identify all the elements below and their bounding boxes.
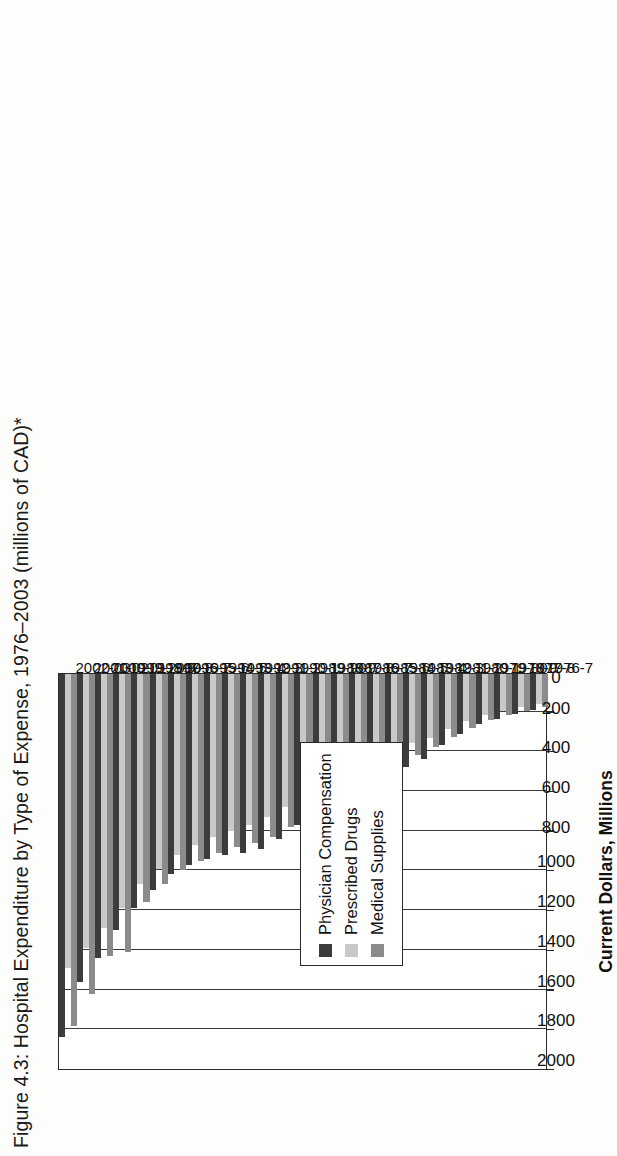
bar [216, 674, 222, 853]
bar [270, 674, 276, 837]
bar-group [276, 674, 294, 1069]
category-label: 2002-03 [76, 659, 131, 676]
bar [162, 674, 168, 884]
bar-group [168, 674, 186, 1069]
bar [488, 674, 494, 720]
bar-group [476, 674, 494, 1069]
bar [198, 674, 204, 861]
bar [524, 674, 530, 711]
axis-tick-label: 600 [542, 778, 570, 798]
bar [234, 674, 240, 847]
bar-group [77, 674, 95, 1069]
axis-tick-label: 800 [542, 818, 570, 838]
legend-label: Prescribed Drugs [342, 808, 361, 935]
axis-tick-label: 400 [542, 738, 570, 758]
bar [288, 674, 294, 827]
axis-tick-label: 1600 [537, 972, 575, 992]
bar [415, 674, 421, 755]
bar [506, 674, 512, 715]
legend: Physician CompensationPrescribed DrugsMe… [300, 742, 403, 966]
bar-group [403, 674, 421, 1069]
axis-tick-label: 1800 [537, 1011, 575, 1031]
bar [180, 674, 186, 871]
bar [469, 674, 475, 728]
bar [71, 674, 77, 1026]
bar-group [512, 674, 530, 1069]
axis-tick-label: 200 [542, 699, 570, 719]
bar-group [186, 674, 204, 1069]
bar [451, 674, 457, 737]
legend-label: Medical Supplies [368, 810, 387, 935]
bar-group [204, 674, 222, 1069]
bar-group [258, 674, 276, 1069]
bar [125, 674, 131, 952]
legend-item: Physician Compensation [316, 753, 335, 957]
bar [89, 674, 95, 994]
bar-group [131, 674, 149, 1069]
bar-group [421, 674, 439, 1069]
bar [143, 674, 149, 902]
axis-tick-label: 2000 [537, 1051, 575, 1071]
bar-group [439, 674, 457, 1069]
legend-label: Physician Compensation [316, 753, 335, 935]
page-title: Figure 4.3: Hospital Expenditure by Type… [10, 417, 33, 1148]
bar [107, 674, 113, 956]
bar-group [494, 674, 512, 1069]
bar-group [113, 674, 131, 1069]
legend-item: Prescribed Drugs [342, 753, 361, 957]
legend-swatch [345, 944, 358, 957]
legend-item: Medical Supplies [368, 753, 387, 957]
bar-group [95, 674, 113, 1069]
bar-group [150, 674, 168, 1069]
legend-swatch [371, 944, 384, 957]
axis-tick-label: 1000 [537, 853, 575, 873]
bar [252, 674, 258, 843]
bar-group [457, 674, 475, 1069]
legend-swatch [319, 944, 332, 957]
axis-tick-label: 1200 [537, 892, 575, 912]
bar-group [240, 674, 258, 1069]
axis-tick-label: 1400 [537, 932, 575, 952]
bar [433, 674, 439, 747]
bar-group [222, 674, 240, 1069]
y-axis-title: Current Dollars, Millions [596, 673, 617, 1070]
bar-group [59, 674, 77, 1069]
y-axis-title-text: Current Dollars, Millions [596, 770, 617, 972]
